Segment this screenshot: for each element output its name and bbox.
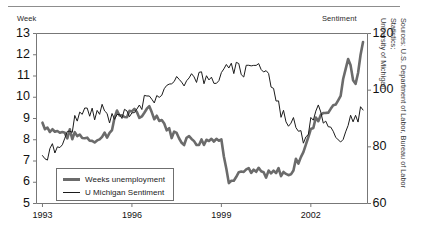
legend-swatch-thin-icon <box>63 192 80 193</box>
source-attribution: Sources: U.S. Department of Labor, Burea… <box>378 18 408 218</box>
chart-legend: Weeks unemployment U Michigan Sentiment <box>56 168 174 201</box>
legend-swatch-thick-icon <box>63 178 80 181</box>
legend-label: Weeks unemployment <box>85 175 165 184</box>
plot-canvas <box>0 0 435 239</box>
chart-figure: Week Sentiment 13 12 11 10 9 8 7 6 5 120… <box>0 0 435 239</box>
legend-item-weeks-unemployment: Weeks unemployment <box>63 173 167 186</box>
series-line-u-michigan-sentiment <box>42 62 363 160</box>
legend-label: U Michigan Sentiment <box>85 188 164 197</box>
legend-item-u-michigan-sentiment: U Michigan Sentiment <box>63 186 167 199</box>
